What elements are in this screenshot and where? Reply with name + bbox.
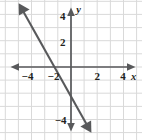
x-axis-left-arrow-icon [11, 63, 20, 71]
graph-canvas: −4 −2 2 4 4 2 −4 x y [0, 0, 142, 140]
coordinate-plane-graph: −4 −2 2 4 4 2 −4 x y [0, 0, 142, 140]
x-axis-right-arrow-icon [127, 63, 136, 71]
x-tick-label-neg2: −2 [48, 70, 60, 82]
y-axis-down-arrow-icon [67, 123, 75, 132]
x-tick-label-neg4: −4 [22, 70, 34, 82]
x-axis-label: x [130, 71, 136, 82]
x-tick-label-4: 4 [120, 70, 126, 82]
y-tick-label-4: 4 [60, 10, 66, 22]
y-tick-label-neg4: −4 [55, 114, 67, 126]
x-tick-label-2: 2 [94, 70, 100, 82]
y-axis-up-arrow-icon [67, 8, 75, 17]
axis-names: x y [74, 4, 136, 82]
y-tick-label-2: 2 [60, 36, 66, 48]
y-axis-label: y [74, 4, 81, 15]
